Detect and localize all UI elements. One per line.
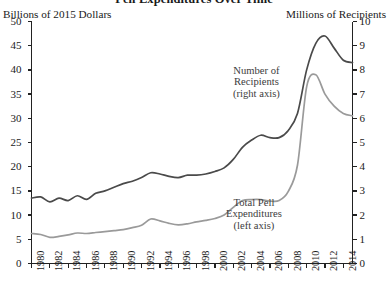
x-tick-label: 1988 (109, 250, 119, 270)
axes (28, 22, 357, 268)
annotation-expenditures: Total Pell Expenditures (left axis) (226, 197, 282, 231)
chart-container: Pell Expenditures Over Time Billions of … (0, 0, 388, 294)
annotation-expenditures-line1: Total Pell (226, 197, 282, 208)
x-tick-label: 2006 (274, 250, 284, 270)
y-tick-label-left: 25 (0, 137, 22, 148)
y-tick-label-left: 10 (0, 210, 22, 221)
y-tick-label-right: 0 (360, 258, 382, 269)
x-tick-label: 1994 (164, 250, 174, 270)
annotation-recipients-line2: Recipients (233, 76, 280, 87)
y-tick-label-left: 45 (0, 40, 22, 51)
y-tick-label-right: 9 (360, 40, 382, 51)
x-tick-label: 1990 (127, 250, 137, 270)
annotation-recipients: Number of Recipients (right axis) (233, 65, 280, 99)
series-line-number-of-recipients (32, 36, 353, 202)
x-tick-label: 1982 (54, 250, 64, 270)
annotation-expenditures-line3: (left axis) (226, 220, 282, 231)
series-line-total-pell-expenditures (32, 74, 353, 237)
y-tick-label-right: 3 (360, 185, 382, 196)
y-tick-label-left: 20 (0, 161, 22, 172)
x-tick-label: 2002 (237, 250, 247, 270)
y-tick-label-right: 2 (360, 210, 382, 221)
y-tick-label-right: 1 (360, 234, 382, 245)
x-tick-label: 2014 (348, 250, 358, 270)
y-tick-label-right: 6 (360, 113, 382, 124)
y-tick-label-left: 5 (0, 234, 22, 245)
annotation-recipients-line1: Number of (233, 65, 280, 76)
y-tick-label-left: 15 (0, 185, 22, 196)
y-tick-label-left: 30 (0, 113, 22, 124)
x-tick-label: 1992 (146, 250, 156, 270)
annotation-expenditures-line2: Expenditures (226, 208, 282, 219)
y-tick-label-right: 4 (360, 161, 382, 172)
x-tick-label: 1980 (36, 250, 46, 270)
x-tick-label: 2004 (256, 250, 266, 270)
y-tick-label-right: 8 (360, 64, 382, 75)
y-tick-label-left: 0 (0, 258, 22, 269)
y-tick-label-right: 10 (360, 16, 382, 27)
y-tick-label-left: 35 (0, 89, 22, 100)
x-tick-label: 2010 (311, 250, 321, 270)
x-tick-label: 2000 (219, 250, 229, 270)
y-tick-label-left: 50 (0, 16, 22, 27)
y-tick-label-right: 5 (360, 137, 382, 148)
x-tick-label: 1998 (201, 250, 211, 270)
x-tick-label: 1986 (91, 250, 101, 270)
x-tick-label: 2012 (329, 250, 339, 270)
x-tick-label: 2008 (293, 250, 303, 270)
annotation-recipients-line3: (right axis) (233, 88, 280, 99)
x-tick-label: 1996 (182, 250, 192, 270)
data-series (32, 36, 353, 238)
y-tick-label-left: 40 (0, 64, 22, 75)
y-tick-label-right: 7 (360, 89, 382, 100)
x-tick-label: 1984 (72, 250, 82, 270)
